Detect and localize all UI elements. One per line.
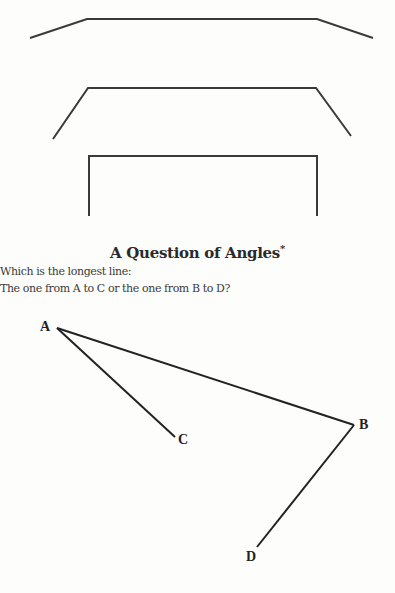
label-d: D: [246, 549, 256, 565]
question-line-2: The one from A to C or the one from B to…: [0, 282, 230, 295]
label-b: B: [359, 417, 368, 433]
shape-steep-angle: [53, 88, 351, 139]
line-b-d: [257, 425, 354, 547]
shape-shallow-angle: [30, 19, 373, 38]
shape-right-angle: [89, 156, 317, 216]
label-c: C: [178, 432, 188, 448]
line-a-b: [57, 328, 354, 425]
label-a: A: [40, 319, 50, 335]
page-title: A Question of Angles*: [0, 243, 395, 262]
illusion-figure: [0, 0, 395, 593]
question-line-1: Which is the longest line:: [0, 265, 131, 278]
line-a-c: [57, 328, 175, 437]
